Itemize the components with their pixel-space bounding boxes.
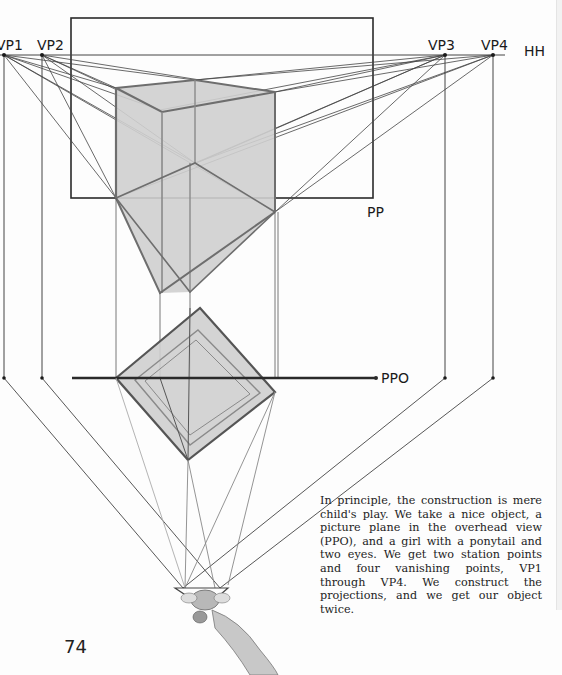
vp4-label: VP4 <box>481 38 508 52</box>
perspective-box <box>116 80 275 293</box>
vp2-label: VP2 <box>37 38 64 52</box>
picture-plane-label: PP <box>367 205 384 219</box>
ppo-label: PPO <box>381 371 409 385</box>
vp3-label: VP3 <box>428 38 455 52</box>
horizon-label: HH <box>524 44 545 58</box>
vp1-label: VP1 <box>0 38 23 52</box>
caption-text: In principle, the construction is mere c… <box>320 494 542 616</box>
plan-view-object <box>116 308 275 460</box>
observer-figure <box>175 588 278 675</box>
page-number: 74 <box>64 636 87 657</box>
book-page: VP1 VP2 VP3 VP4 HH PP PPO In principle, … <box>0 0 562 675</box>
